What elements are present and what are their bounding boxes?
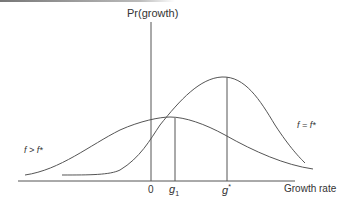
curve-f-greater-fstar bbox=[25, 117, 313, 175]
label-f-greater-fstar: f > f* bbox=[24, 145, 43, 155]
tick-zero: 0 bbox=[148, 184, 154, 195]
growth-distribution-diagram: Pr(growth) Growth rate 0 g1 g* f > f* f … bbox=[0, 0, 354, 202]
tick-g1-subscript: 1 bbox=[175, 190, 179, 197]
diagram-canvas bbox=[0, 0, 354, 202]
tick-gstar: g* bbox=[222, 183, 231, 196]
tick-gstar-superscript: * bbox=[228, 183, 231, 190]
curve-f-equals-fstar bbox=[62, 77, 305, 175]
tick-g1: g1 bbox=[169, 183, 179, 197]
y-axis-label: Pr(growth) bbox=[127, 7, 178, 19]
label-f-equals-fstar: f = f* bbox=[297, 120, 316, 130]
x-axis-label: Growth rate bbox=[284, 183, 336, 194]
